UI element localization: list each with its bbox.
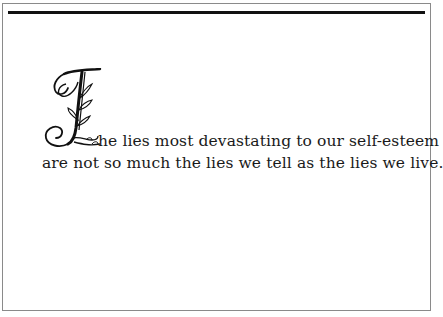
ornamental-drop-cap-t-icon <box>42 68 104 150</box>
quote-line-1: he lies most devastating to our self-est… <box>98 132 439 150</box>
header-rule <box>8 11 425 14</box>
quote-line-2: are not so much the lies we tell as the … <box>42 154 443 172</box>
